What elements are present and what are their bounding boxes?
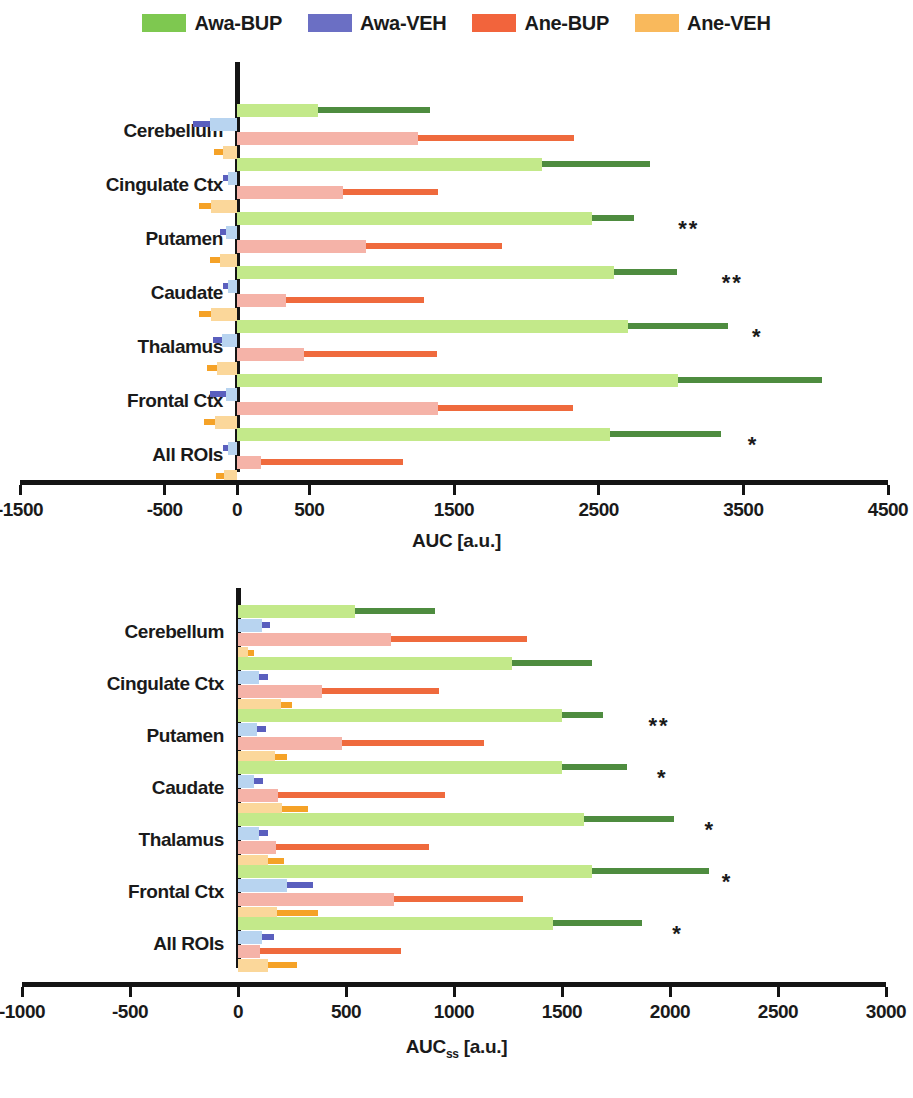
error-bar-ane-veh [214, 149, 223, 155]
bar-fill-ane-veh [238, 959, 268, 972]
bar-fill-awa-bup [237, 266, 614, 279]
error-bar-awa-veh [223, 445, 228, 451]
bar-fill-ane-bup [238, 737, 342, 750]
x-tick-label: 0 [232, 499, 242, 521]
x-tick [887, 485, 890, 495]
error-bar-ane-veh [199, 311, 211, 317]
legend-label-awa-veh: Awa-VEH [360, 12, 446, 35]
error-bar-awa-veh [287, 882, 313, 888]
bar-awa-veh [238, 723, 257, 736]
legend-label-awa-bup: Awa-BUP [194, 12, 282, 35]
bar-fill-awa-veh [226, 388, 237, 401]
category-row-frontal-ctx: Frontal Ctx* [0, 866, 913, 918]
error-bar-ane-bup [286, 297, 425, 303]
category-row-cerebellum: Cerebellum [0, 104, 913, 158]
bar-fill-ane-veh [220, 254, 237, 267]
category-row-cerebellum: Cerebellum [0, 606, 913, 658]
error-bar-ane-bup [366, 243, 502, 249]
legend-label-ane-bup: Ane-BUP [524, 12, 609, 35]
x-tick-label: 3000 [866, 1001, 906, 1023]
bar-ane-veh [223, 146, 237, 159]
x-tick-label: -500 [112, 1001, 148, 1023]
bar-group: * [0, 814, 913, 866]
bar-group: * [0, 866, 913, 918]
bar-ane-bup [238, 841, 276, 854]
bar-awa-bup [237, 320, 628, 333]
x-tick [453, 485, 456, 495]
x-tick-label: 2500 [579, 499, 619, 521]
bar-fill-ane-veh [217, 362, 237, 375]
significance-marker: * [672, 921, 683, 947]
bar-fill-ane-veh [215, 416, 237, 429]
x-tick [129, 987, 132, 997]
error-bar-ane-veh [282, 806, 308, 812]
chart-panel-auc: CerebellumCingulate CtxPutamen**Caudate*… [0, 62, 913, 562]
x-tick-label: -1000 [0, 1001, 45, 1023]
bar-fill-awa-bup [238, 657, 512, 670]
error-bar-awa-bup [562, 764, 627, 770]
x-axis-title-tail: [a.u.] [459, 1036, 508, 1057]
bar-fill-awa-bup [237, 428, 610, 441]
legend-swatch-awa-veh [308, 14, 352, 32]
legend-swatch-ane-veh [635, 14, 679, 32]
bar-awa-veh [228, 442, 237, 455]
error-bar-awa-bup [512, 660, 592, 666]
significance-marker: ** [648, 713, 669, 739]
x-axis-title-auc-ss: AUCss [a.u.] [0, 1036, 913, 1061]
significance-marker: * [657, 765, 668, 791]
significance-marker: ** [678, 216, 699, 242]
bar-fill-awa-veh [238, 931, 262, 944]
bar-fill-awa-bup [238, 761, 562, 774]
bar-awa-bup [238, 709, 562, 722]
bar-ane-veh [238, 959, 268, 972]
significance-marker: ** [722, 270, 743, 296]
bar-ane-bup [237, 240, 366, 253]
bar-fill-awa-bup [238, 709, 562, 722]
bar-ane-veh [211, 308, 237, 321]
x-tick [21, 987, 24, 997]
bar-awa-bup [237, 428, 610, 441]
bar-awa-veh [228, 172, 237, 185]
error-bar-ane-bup [342, 740, 485, 746]
error-bar-awa-bup [562, 712, 603, 718]
bar-awa-bup [237, 212, 592, 225]
bar-fill-awa-bup [237, 212, 592, 225]
category-row-thalamus: Thalamus* [0, 320, 913, 374]
bar-group [0, 658, 913, 710]
bar-fill-awa-veh [238, 723, 257, 736]
bar-fill-awa-bup [238, 865, 592, 878]
error-bar-ane-veh [204, 419, 215, 425]
bar-fill-awa-veh [228, 172, 237, 185]
plot-area-auc: CerebellumCingulate CtxPutamen**Caudate*… [0, 62, 913, 472]
bar-fill-awa-veh [228, 280, 237, 293]
bar-fill-awa-veh [238, 827, 259, 840]
bar-awa-veh [238, 671, 259, 684]
x-tick [308, 485, 311, 495]
bar-fill-awa-veh [238, 775, 254, 788]
bar-group: * [0, 918, 913, 970]
bar-fill-awa-bup [238, 917, 553, 930]
x-tick-label: 4500 [868, 499, 908, 521]
error-bar-awa-bup [584, 816, 675, 822]
bar-fill-ane-bup [237, 186, 343, 199]
x-tick-label: 3500 [723, 499, 763, 521]
legend-item-ane-veh: Ane-VEH [635, 12, 770, 35]
error-bar-awa-bup [318, 107, 429, 113]
error-bar-awa-bup [614, 269, 677, 275]
bar-ane-veh [215, 416, 237, 429]
bar-ane-bup [238, 737, 342, 750]
significance-marker: * [752, 324, 763, 350]
chart-panel-auc-ss: CerebellumCingulate CtxPutamen**Caudate*… [0, 588, 913, 1098]
x-tick-label: 500 [331, 1001, 361, 1023]
error-bar-ane-bup [261, 459, 403, 465]
bar-awa-veh [238, 619, 262, 632]
error-bar-awa-veh [193, 121, 210, 127]
error-bar-ane-bup [391, 636, 527, 642]
category-row-frontal-ctx: Frontal Ctx [0, 374, 913, 428]
legend-item-awa-bup: Awa-BUP [142, 12, 282, 35]
bar-awa-bup [238, 865, 592, 878]
bar-ane-bup [238, 633, 391, 646]
bar-fill-awa-veh [238, 879, 287, 892]
bar-group [0, 374, 913, 428]
error-bar-awa-veh [257, 726, 266, 732]
